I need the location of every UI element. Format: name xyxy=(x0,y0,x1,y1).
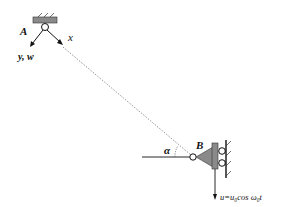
wall xyxy=(226,140,231,178)
hinge-b xyxy=(190,154,196,160)
roller-upper xyxy=(219,148,226,155)
angle-arc xyxy=(175,146,178,157)
label-excitation: u=u₀cos ω₀t xyxy=(220,192,262,202)
string-ab xyxy=(63,47,191,155)
axes-a xyxy=(30,30,63,47)
displacement-arrow xyxy=(213,169,217,200)
label-alpha: α xyxy=(164,144,170,156)
support-a xyxy=(33,13,57,31)
label-y-w: y, w xyxy=(18,51,34,62)
label-x: x xyxy=(68,31,73,43)
label-a: A xyxy=(20,25,27,37)
slider xyxy=(212,143,218,169)
diagram-canvas xyxy=(0,0,290,207)
label-b: B xyxy=(196,139,203,151)
roller-lower xyxy=(219,160,226,167)
